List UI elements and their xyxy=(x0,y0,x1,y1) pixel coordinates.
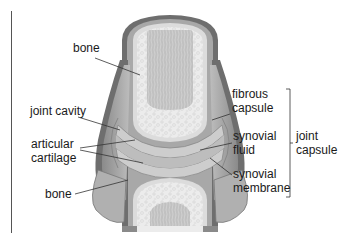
label-fibrous-capsule-line1: fibrous xyxy=(232,88,268,101)
label-bone-bottom: bone xyxy=(45,188,72,201)
label-bone-top: bone xyxy=(73,42,100,55)
label-joint-capsule-line2: capsule xyxy=(296,144,337,157)
label-synovial-membrane-line2: membrane xyxy=(233,182,290,195)
label-synovial-fluid-line1: synovial xyxy=(233,130,276,143)
label-synovial-fluid-line2: fluid xyxy=(233,144,255,157)
label-joint-capsule-line1: joint xyxy=(296,130,318,143)
label-articular-cartilage-line2: cartilage xyxy=(31,152,76,165)
synovial-joint-diagram xyxy=(0,0,353,248)
label-fibrous-capsule-line2: capsule xyxy=(232,102,273,115)
label-joint-cavity: joint cavity xyxy=(30,105,86,118)
label-articular-cartilage-line1: articular xyxy=(31,138,74,151)
label-synovial-membrane-line1: synovial xyxy=(233,168,276,181)
